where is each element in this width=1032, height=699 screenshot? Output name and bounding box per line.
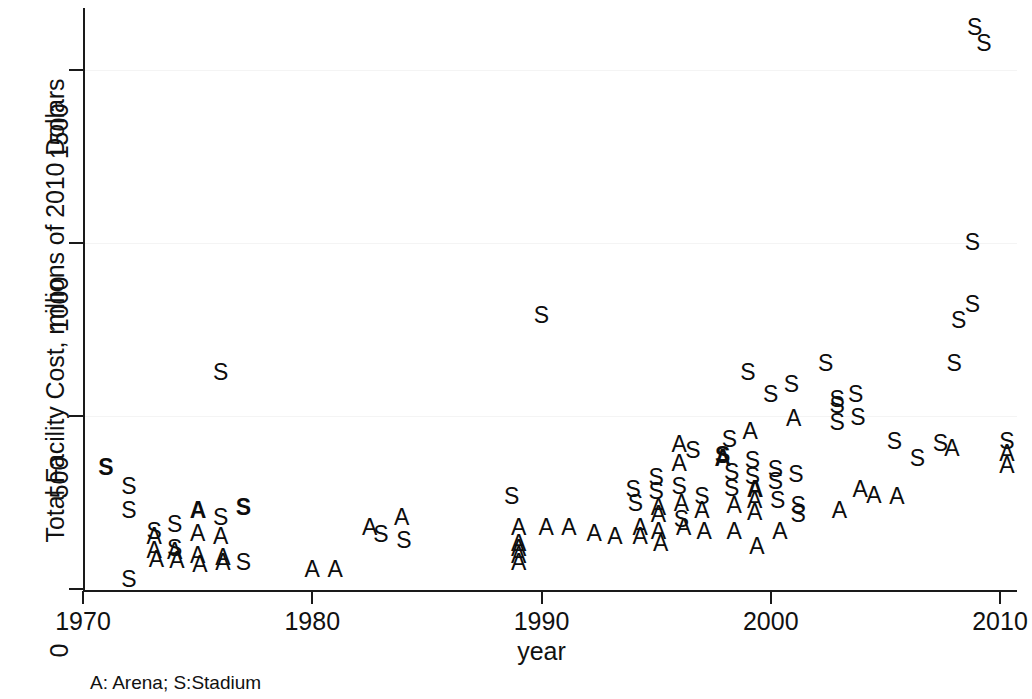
data-point-stadium: S — [235, 496, 251, 519]
data-point-arena: A — [148, 548, 164, 571]
x-tick-label-2000: 2000 — [711, 607, 831, 636]
data-point-arena: A — [511, 532, 527, 555]
data-point-stadium: S — [373, 523, 389, 546]
data-point-stadium: S — [951, 309, 967, 332]
data-point-arena: A — [511, 544, 527, 567]
data-point-stadium: S — [167, 537, 183, 560]
data-point-stadium: S — [685, 439, 701, 462]
data-point-stadium: S — [167, 513, 183, 536]
data-point-arena: A — [726, 520, 742, 543]
data-point-arena: A — [650, 520, 666, 543]
data-point-stadium: S — [946, 352, 962, 375]
data-point-arena: A — [146, 539, 162, 562]
x-tick-1980 — [311, 591, 313, 604]
data-point-stadium: S — [235, 551, 251, 574]
data-point-arena: A — [394, 506, 410, 529]
data-point-stadium: S — [818, 352, 834, 375]
data-point-arena: A — [671, 452, 687, 475]
data-point-stadium: S — [396, 529, 412, 552]
data-point-arena: A — [671, 433, 687, 456]
data-point-stadium: S — [627, 492, 643, 515]
data-point-stadium: S — [625, 478, 641, 501]
data-point-arena: A — [696, 520, 712, 543]
gridline — [85, 70, 1017, 71]
data-point-arena: A — [944, 437, 960, 460]
data-point-arena: A — [715, 447, 731, 470]
data-point-stadium: S — [213, 361, 229, 384]
data-point-arena: A — [169, 549, 185, 572]
data-point-stadium: S — [146, 520, 162, 543]
data-point-arena: A — [167, 540, 183, 563]
data-point-stadium: S — [673, 508, 689, 531]
data-point-arena: A — [511, 537, 527, 560]
data-point-stadium: S — [909, 447, 925, 470]
data-point-arena: A — [650, 496, 666, 519]
data-point-stadium: S — [671, 475, 687, 498]
data-point-stadium: S — [121, 568, 137, 591]
data-point-arena: A — [586, 522, 602, 545]
data-point-arena: A — [889, 485, 905, 508]
data-point-arena: A — [213, 525, 229, 548]
data-point-arena: A — [561, 516, 577, 539]
data-point-stadium: S — [504, 485, 520, 508]
data-point-arena: A — [190, 522, 206, 545]
data-point-arena: A — [190, 499, 206, 522]
data-point-arena: A — [607, 525, 623, 548]
data-point-arena: A — [190, 544, 206, 567]
data-point-stadium: S — [721, 428, 737, 451]
gridline — [85, 243, 1017, 244]
data-point-arena: A — [772, 520, 788, 543]
data-point-stadium: S — [724, 477, 740, 500]
data-point-stadium: S — [850, 406, 866, 429]
data-point-arena: A — [742, 420, 758, 443]
x-tick-label-1990: 1990 — [482, 607, 602, 636]
legend-footnote: A: Arena; S:Stadium — [90, 672, 261, 694]
data-point-arena: A — [676, 516, 692, 539]
data-point-arena: A — [999, 454, 1015, 477]
data-point-stadium: S — [829, 394, 845, 417]
x-tick-label-1980: 1980 — [252, 607, 372, 636]
data-point-stadium: S — [999, 430, 1015, 453]
data-point-stadium: S — [790, 503, 806, 526]
data-point-arena: A — [327, 558, 343, 581]
data-point-stadium: S — [744, 449, 760, 472]
data-point-stadium: S — [887, 430, 903, 453]
y-tick-label-1500: 1500 — [45, 72, 74, 192]
data-point-arena: A — [747, 501, 763, 524]
data-point-stadium: S — [694, 485, 710, 508]
data-point-stadium: S — [724, 461, 740, 484]
data-point-stadium: S — [121, 499, 137, 522]
data-point-arena: A — [747, 478, 763, 501]
data-point-stadium: S — [788, 463, 804, 486]
data-point-arena: A — [304, 558, 320, 581]
data-point-arena: A — [653, 532, 669, 555]
data-point-arena: A — [673, 492, 689, 515]
data-point-arena: A — [852, 478, 868, 501]
x-tick-1970 — [82, 591, 84, 604]
gridline — [85, 416, 1017, 417]
data-point-stadium: S — [829, 411, 845, 434]
x-tick-1990 — [541, 591, 543, 604]
x-axis-line — [83, 590, 1017, 592]
data-point-arena: A — [511, 551, 527, 574]
data-point-arena: A — [694, 499, 710, 522]
data-point-arena: A — [362, 516, 378, 539]
data-point-stadium: S — [783, 373, 799, 396]
data-point-stadium: S — [767, 470, 783, 493]
data-point-arena: A — [786, 407, 802, 430]
data-point-arena: A — [650, 503, 666, 526]
data-point-stadium: S — [715, 444, 731, 467]
data-point-arena: A — [538, 516, 554, 539]
data-point-stadium: S — [964, 293, 980, 316]
data-point-arena: A — [632, 516, 648, 539]
data-point-stadium: S — [534, 304, 550, 327]
x-tick-label-2010: 2010 — [940, 607, 1032, 636]
y-tick-label-500: 500 — [45, 418, 74, 538]
data-point-stadium: S — [744, 465, 760, 488]
data-point-stadium: S — [648, 466, 664, 489]
data-point-arena: A — [747, 489, 763, 512]
x-axis-title: year — [83, 637, 1000, 666]
data-point-stadium: S — [848, 383, 864, 406]
